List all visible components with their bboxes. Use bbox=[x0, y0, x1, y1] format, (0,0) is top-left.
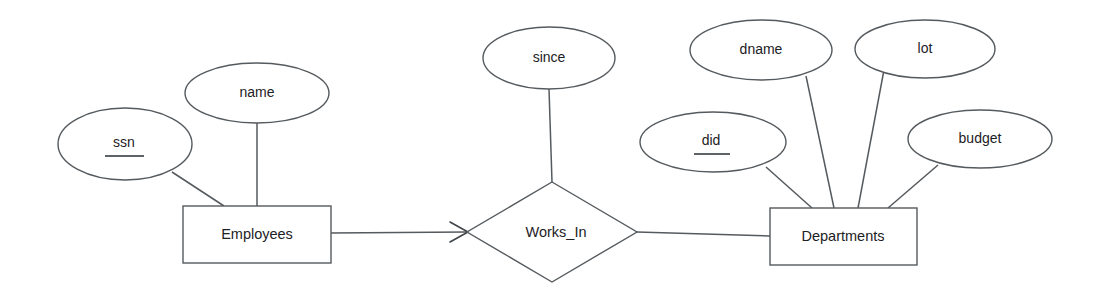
connector-lot-departments bbox=[858, 70, 884, 208]
attribute-name[interactable]: name bbox=[185, 63, 329, 123]
er-diagram: Employees Departments Works_In ssn name … bbox=[0, 0, 1113, 293]
attribute-budget[interactable]: budget bbox=[908, 110, 1052, 168]
er-diagram-canvas: Employees Departments Works_In ssn name … bbox=[0, 0, 1113, 293]
attribute-lot-label: lot bbox=[918, 40, 933, 56]
attribute-ssn-label: ssn bbox=[113, 134, 135, 150]
connector-employees-works-in bbox=[331, 232, 467, 233]
attribute-dname-label: dname bbox=[740, 41, 783, 57]
attribute-lot[interactable]: lot bbox=[855, 20, 995, 78]
connector-dname-departments bbox=[806, 76, 834, 208]
entity-employees[interactable]: Employees bbox=[183, 206, 331, 263]
relationship-works-in-label: Works_In bbox=[526, 224, 587, 240]
attribute-since[interactable]: since bbox=[483, 27, 615, 89]
attribute-name-label: name bbox=[239, 84, 274, 100]
connector-budget-departments bbox=[888, 165, 938, 208]
attribute-did[interactable]: did bbox=[640, 112, 786, 172]
attribute-dname[interactable]: dname bbox=[690, 20, 832, 80]
connector-ssn-employees bbox=[172, 172, 224, 206]
connector-since-works-in bbox=[549, 89, 552, 182]
attribute-since-label: since bbox=[533, 49, 566, 65]
connector-works-in-departments bbox=[637, 232, 770, 236]
entity-departments[interactable]: Departments bbox=[770, 208, 917, 265]
entity-departments-label: Departments bbox=[801, 228, 884, 244]
attribute-ssn[interactable]: ssn bbox=[58, 108, 192, 180]
connector-did-departments bbox=[766, 167, 812, 208]
attribute-budget-label: budget bbox=[959, 130, 1002, 146]
attribute-did-label: did bbox=[702, 132, 721, 148]
entity-employees-label: Employees bbox=[221, 226, 293, 242]
relationship-works-in[interactable]: Works_In bbox=[467, 182, 637, 282]
